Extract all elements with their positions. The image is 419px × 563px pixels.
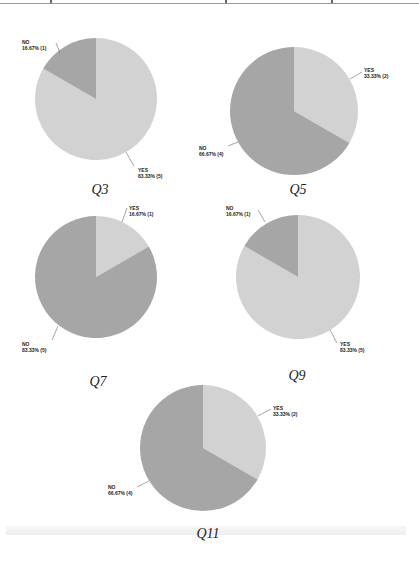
label-no-value: 83.33% (5) bbox=[22, 347, 47, 353]
label-yes-value: 33.33% (2) bbox=[364, 73, 389, 79]
label-no-value: 16.67% (1) bbox=[22, 45, 47, 51]
caption-q3: Q3 bbox=[91, 182, 108, 197]
pie-chart-grid: NO 16.67% (1) YES 83.33% (5) Q3 YES 33.3… bbox=[0, 0, 419, 563]
caption-q7: Q7 bbox=[89, 374, 107, 389]
leader-line-yes bbox=[350, 72, 362, 79]
label-yes-value: 33.33% (2) bbox=[273, 411, 298, 417]
caption-q11: Q11 bbox=[196, 526, 219, 541]
pie-chart-q11: YES 33.33% (2) NO 66.67% (4) Q11 bbox=[108, 385, 298, 541]
label-no-value: 16.67% (1) bbox=[226, 211, 251, 217]
leader-line-no bbox=[137, 481, 149, 487]
leader-line-yes bbox=[126, 152, 134, 166]
pie-chart-q5: YES 33.33% (2) NO 66.67% (4) Q5 bbox=[199, 47, 389, 197]
pie-chart-q7: YES 16.67% (1) NO 83.33% (5) Q7 bbox=[22, 205, 157, 389]
leader-line-yes bbox=[258, 409, 271, 416]
label-no-value: 66.67% (4) bbox=[199, 151, 224, 157]
leader-line-no bbox=[228, 142, 238, 146]
caption-q9: Q9 bbox=[288, 368, 305, 383]
pie-chart-q9: NO 16.67% (1) YES 83.33% (5) Q9 bbox=[226, 205, 365, 383]
label-yes-value: 83.33% (5) bbox=[340, 347, 365, 353]
label-no-value: 66.67% (4) bbox=[108, 490, 133, 496]
leader-line-no bbox=[258, 210, 265, 222]
caption-q5: Q5 bbox=[289, 182, 306, 197]
leader-line-yes bbox=[122, 208, 127, 222]
pie-chart-q3: NO 16.67% (1) YES 83.33% (5) Q3 bbox=[22, 38, 163, 197]
label-yes-value: 16.67% (1) bbox=[129, 211, 154, 217]
label-yes-value: 83.33% (5) bbox=[138, 173, 163, 179]
leader-line-no bbox=[52, 326, 58, 340]
leader-line-yes bbox=[330, 330, 337, 343]
